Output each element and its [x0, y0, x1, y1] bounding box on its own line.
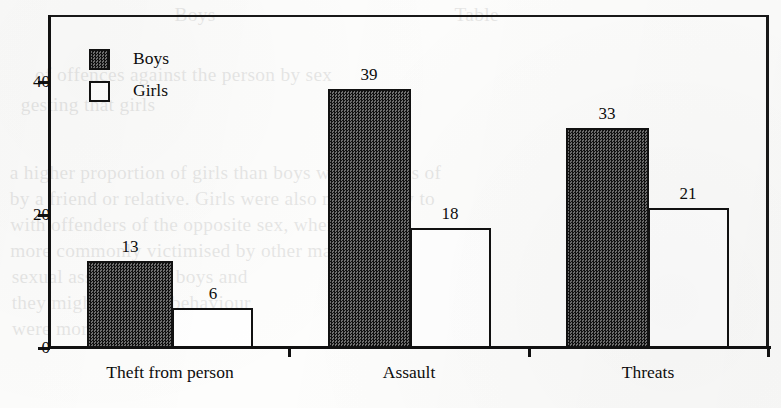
legend-item-girls: Girls: [89, 75, 169, 107]
y-tick-label: 20: [16, 206, 50, 223]
x-tick-mark: [528, 349, 531, 357]
x-category-label-assault: Assault: [383, 362, 436, 383]
x-tick-mark: [288, 349, 291, 357]
bar-boys-assault: [328, 89, 411, 348]
x-category-label-threats: Threats: [622, 362, 674, 383]
x-category-label-theft-from-person: Theft from person: [106, 362, 233, 383]
legend-label-boys: Boys: [133, 50, 169, 68]
bar-girls-assault: [410, 228, 491, 348]
bar-girls-threats: [648, 208, 729, 348]
legend-label-girls: Girls: [133, 82, 168, 100]
bar-boys-theft-from-person: [87, 261, 173, 348]
x-tick-mark: [767, 349, 770, 357]
y-axis-line: [48, 15, 51, 349]
bar-value-boys-theft-from-person: 13: [122, 238, 139, 255]
chart-legend: Boys Girls: [89, 43, 169, 107]
y-tick-label: 0: [16, 339, 50, 356]
bar-value-boys-assault: 39: [361, 66, 378, 83]
legend-item-boys: Boys: [89, 43, 169, 75]
y-tick-label: 40: [16, 73, 50, 90]
legend-swatch-girls-icon: [89, 81, 110, 102]
bar-boys-threats: [566, 128, 649, 348]
chart-page: Boys Table of offences against the perso…: [0, 0, 781, 408]
bar-girls-theft-from-person: [172, 308, 253, 348]
legend-swatch-boys-icon: [89, 49, 110, 70]
bar-value-girls-threats: 21: [680, 185, 697, 202]
bar-value-girls-theft-from-person: 6: [209, 285, 218, 302]
bar-value-boys-threats: 33: [599, 105, 616, 122]
bar-value-girls-assault: 18: [442, 205, 459, 222]
